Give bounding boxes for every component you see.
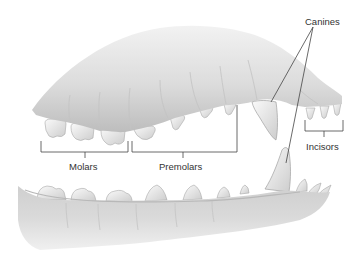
upper-canine <box>252 101 278 141</box>
incisors-label: Incisors <box>306 142 339 152</box>
premolars-label: Premolars <box>159 162 202 172</box>
lower-canine <box>265 148 291 192</box>
incisors-bracket <box>305 120 343 131</box>
upper-jaw <box>0 20 342 145</box>
canines-label: Canines <box>305 17 340 27</box>
jaw-illustration <box>0 0 362 269</box>
dog-teeth-diagram: Canines Incisors Molars Premolars <box>0 0 362 269</box>
molars-label: Molars <box>69 162 98 172</box>
